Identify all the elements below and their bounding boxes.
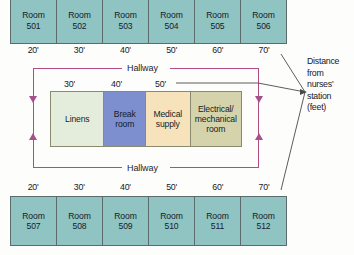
distance-label: 60' xyxy=(195,182,241,195)
room-number: 507 xyxy=(26,221,40,231)
distance-label: 40' xyxy=(102,182,148,195)
caption-line: nurses' xyxy=(307,79,354,91)
caption-line: (feet) xyxy=(307,102,354,114)
bottom-room-strip: Room 507 Room 508 Room 509 Room 510 Room… xyxy=(10,196,287,246)
room-number: 508 xyxy=(72,221,86,231)
caption-distance-from-nurses-station: Distance from nurses' station (feet) xyxy=(307,56,354,114)
room-cell[interactable]: Room 512 xyxy=(241,197,286,245)
room-cell[interactable]: Room 508 xyxy=(57,197,103,245)
distance-label: 70' xyxy=(241,182,287,195)
room-label-line1: Room xyxy=(252,211,275,221)
room-cell[interactable]: Room 511 xyxy=(195,197,241,245)
room-cell[interactable]: Room 510 xyxy=(149,197,195,245)
caption-line: Distance xyxy=(307,56,354,68)
room-cell[interactable]: Room 507 xyxy=(11,197,57,245)
caption-line: from xyxy=(307,68,354,80)
leader-line-middle xyxy=(176,83,305,92)
room-label-line1: Room xyxy=(114,211,137,221)
room-number: 510 xyxy=(164,221,178,231)
caption-line: station xyxy=(307,91,354,103)
distance-label: 30' xyxy=(56,182,102,195)
room-label-line1: Room xyxy=(68,211,91,221)
room-label-line1: Room xyxy=(206,211,229,221)
distance-label: 20' xyxy=(10,182,56,195)
room-label-line1: Room xyxy=(160,211,183,221)
leader-line-bottom xyxy=(281,92,305,190)
room-label-line1: Room xyxy=(22,211,45,221)
room-number: 511 xyxy=(211,221,224,231)
room-number: 512 xyxy=(256,221,270,231)
bottom-distance-labels: 20' 30' 40' 50' 60' 70' xyxy=(10,182,287,195)
room-cell[interactable]: Room 509 xyxy=(103,197,149,245)
distance-label: 50' xyxy=(149,182,195,195)
floor-plan-diagram: Room 501 Room 502 Room 503 Room 504 Room… xyxy=(0,0,354,255)
room-number: 509 xyxy=(118,221,132,231)
leader-line-top xyxy=(281,54,305,92)
